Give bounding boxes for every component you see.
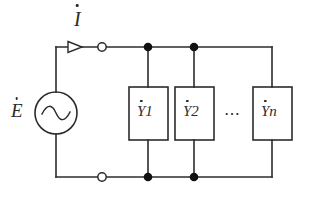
- admittance-2-subscript: 2: [191, 103, 199, 119]
- overdot-current: [76, 4, 79, 7]
- admittance-n-subscript: n: [269, 103, 277, 119]
- current-label: I: [74, 9, 81, 29]
- admittance-1-subscript: 1: [145, 103, 153, 119]
- emf-symbol: E: [11, 101, 23, 120]
- admittance-1-label: Y 1: [137, 104, 153, 119]
- admittance-n-label: Y n: [261, 104, 277, 119]
- current-symbol: I: [74, 9, 81, 29]
- junction-node-top-1: [144, 43, 153, 52]
- admittance-2-symbol: Y: [183, 104, 191, 119]
- junction-node-bottom-2: [190, 173, 199, 182]
- sine-wave-icon: [42, 106, 70, 119]
- emf-label: E: [11, 101, 23, 120]
- open-terminal-bottom: [98, 173, 106, 181]
- junction-node-bottom-1: [144, 173, 153, 182]
- open-terminal-top: [98, 43, 106, 51]
- junction-node-top-2: [190, 43, 199, 52]
- current-direction-arrow-icon: [68, 42, 82, 53]
- circuit-diagram-canvas: I E Y 1 Y 2 ⋯ Y n: [0, 0, 311, 204]
- overdot-emf: [16, 97, 19, 100]
- admittance-1-symbol: Y: [137, 104, 145, 119]
- admittance-n-symbol: Y: [261, 104, 269, 119]
- admittance-2-label: Y 2: [183, 104, 199, 119]
- ellipsis-label: ⋯: [224, 106, 241, 122]
